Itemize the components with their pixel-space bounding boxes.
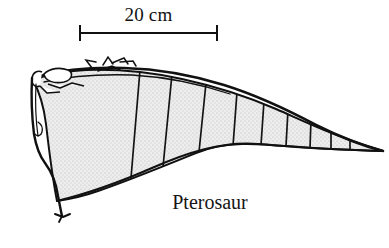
- figure-caption: Pterosaur: [120, 190, 300, 214]
- scale-bar-label: 20 cm: [79, 4, 218, 26]
- scale-bar: [79, 25, 218, 41]
- pterosaur-figure: 20 cm Pterosaur: [0, 0, 389, 248]
